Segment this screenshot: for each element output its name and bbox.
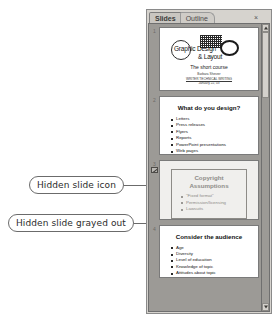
slide-bullet: Web pages <box>171 148 254 154</box>
slide-title: Consider the audience <box>164 233 254 241</box>
slide-number: 4 <box>150 226 159 232</box>
panel-tab-strip: Slides Outline × <box>147 10 271 23</box>
tab-slides-label: Slides <box>155 15 176 22</box>
callout-hidden-slide-icon-label: Hidden slide icon <box>29 176 124 194</box>
slide-bullet-list: Age Diversity Level of education Knowled… <box>171 245 254 277</box>
logo-text-line2: & Layout <box>198 53 222 60</box>
slide-row[interactable]: 3 Copyright Assumptions "Fixed format" P… <box>149 157 261 221</box>
slide-gutter: 2 <box>150 96 159 103</box>
vertical-scrollbar[interactable] <box>261 23 270 312</box>
slide-thumbnail[interactable]: Graphic Design & Layout The short course… <box>159 27 259 91</box>
slide-bullet-list: "Fixed format" Permission/licensing Laws… <box>181 193 240 212</box>
scroll-down-arrow-icon[interactable] <box>262 303 269 311</box>
callout-hidden-slide-icon: Hidden slide icon <box>29 176 162 194</box>
slide-title: Copyright Assumptions <box>176 174 242 190</box>
slide-bullet: Attitudes about topic <box>171 270 254 276</box>
bold-ring-icon <box>220 40 239 56</box>
slide-row[interactable]: 4 Consider the audience Age Diversity Le… <box>149 222 261 280</box>
slide-byline-line3: January 22, 03 <box>160 81 258 86</box>
slides-scroll-area: 1 Graphic Design & Layout The short cour… <box>148 23 270 312</box>
slide-number: 2 <box>150 97 159 103</box>
slide-number: 1 <box>150 28 159 34</box>
slide-byline: Barbara Sherzer WRITER TECHNICAL WRITING… <box>160 72 258 86</box>
slide-row[interactable]: 2 What do you design? Letters Press rele… <box>149 93 261 157</box>
logo-text-line1: Graphic Design <box>174 45 216 52</box>
callout-hidden-slide-grayed-label: Hidden slide grayed out <box>8 214 134 232</box>
tab-outline-label: Outline <box>186 15 208 22</box>
slide-bullet: Lawsuits <box>181 206 240 212</box>
slide-logo: Graphic Design & Layout <box>168 35 250 61</box>
slide-gutter: 1 <box>150 27 159 34</box>
slide-thumbnail[interactable]: Consider the audience Age Diversity Leve… <box>159 225 259 278</box>
slide-title: What do you design? <box>164 104 254 112</box>
slide-thumbnail[interactable]: What do you design? Letters Press releas… <box>159 96 259 155</box>
slide-thumbnail-hidden[interactable]: Copyright Assumptions "Fixed format" Per… <box>159 160 259 219</box>
slides-thumbnail-list[interactable]: 1 Graphic Design & Layout The short cour… <box>148 23 261 312</box>
scroll-up-arrow-icon[interactable] <box>262 24 269 32</box>
slide-content-box: Copyright Assumptions "Fixed format" Per… <box>171 169 247 218</box>
tab-outline[interactable]: Outline <box>180 12 215 23</box>
scrollbar-thumb[interactable] <box>262 32 269 98</box>
slide-gutter: 3 <box>150 160 159 167</box>
scrollbar-track[interactable] <box>262 32 269 303</box>
hidden-slide-icon[interactable] <box>151 167 158 173</box>
slide-bullet-list: Letters Press releases Flyers Reports Po… <box>171 116 254 154</box>
page-right-edge <box>276 0 278 321</box>
close-icon[interactable]: × <box>254 14 258 22</box>
slide-row[interactable]: 1 Graphic Design & Layout The short cour… <box>149 24 261 93</box>
tab-slides[interactable]: Slides <box>149 12 183 23</box>
slides-panel: Slides Outline × 1 Graphic Design <box>146 9 272 314</box>
slide-gutter: 4 <box>150 225 159 232</box>
slide-subtitle: The short course <box>160 64 258 70</box>
